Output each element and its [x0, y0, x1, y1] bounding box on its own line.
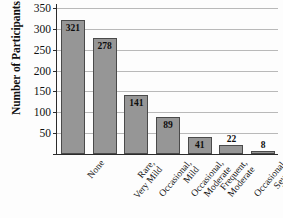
bar: 89	[156, 117, 180, 154]
bar-value-label: 8	[261, 140, 266, 150]
gridline	[56, 91, 278, 92]
y-tick-label: 150	[34, 85, 51, 97]
gridline	[56, 71, 278, 72]
bar: 321	[61, 20, 85, 154]
gridline	[56, 112, 278, 113]
x-axis-line	[56, 154, 278, 155]
bar-value-label: 141	[129, 98, 143, 108]
bar-value-label: 321	[66, 23, 80, 33]
y-axis-title: Number of Participants	[10, 0, 22, 128]
x-tick-label: Rare, Very Mild	[123, 158, 163, 201]
bar: 278	[93, 38, 117, 154]
gridline	[56, 50, 278, 51]
bar-value-label: 41	[195, 140, 205, 150]
bar: 22	[219, 145, 243, 154]
bar-value-label: 22	[227, 134, 237, 144]
x-tick-label: Occasional, Mild	[157, 158, 201, 205]
x-tick-label: None	[85, 158, 106, 180]
bar: 41	[188, 137, 212, 154]
bar-value-label: 278	[97, 41, 111, 51]
x-tick-label: Occasional, Severe	[252, 158, 283, 205]
bar: 141	[124, 95, 148, 154]
y-tick-label: 250	[34, 44, 51, 56]
gridline	[56, 29, 278, 30]
gridline	[56, 8, 278, 9]
y-tick-label: 200	[34, 65, 51, 77]
y-tick-label: 300	[34, 23, 51, 35]
y-tick-label: 350	[34, 2, 51, 14]
plot-area: 50100150200250300350 3212781418941228	[56, 4, 278, 155]
bar-chart-figure: Number of Participants 50100150200250300…	[0, 0, 283, 218]
y-tick-label: 100	[34, 106, 51, 118]
y-tick-label: 50	[40, 127, 52, 139]
bar-value-label: 89	[163, 120, 173, 130]
y-axis-line	[56, 4, 57, 155]
